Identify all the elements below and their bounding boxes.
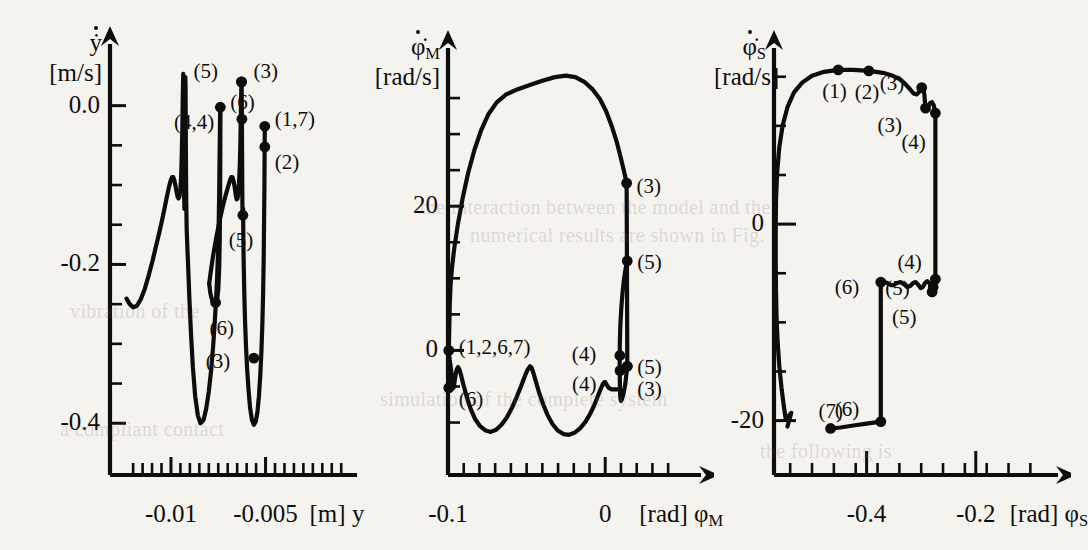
data-point-marker: [622, 361, 633, 372]
point-label: (3): [880, 73, 905, 94]
data-point-marker: [622, 256, 633, 267]
point-label: (3): [878, 115, 903, 136]
page-ghost-text: the interaction between the model and th…: [420, 196, 771, 219]
x-tick-label: -0.1: [388, 501, 508, 526]
data-point-marker: [443, 345, 454, 356]
x-ticks: [133, 457, 341, 475]
curve-third-descent: [243, 129, 265, 424]
x-axis-unit-and-label: [rad] φM: [639, 501, 723, 530]
y-axis-unit: [rad/s]: [714, 64, 766, 89]
y-axis-label: φ̇S: [714, 34, 766, 63]
y-tick-label: -20: [714, 407, 764, 432]
point-label: (4): [572, 344, 597, 365]
point-label: (7): [819, 401, 844, 422]
x-tick-label: -0.005: [206, 501, 326, 526]
y-axis-label: φ̇M: [357, 34, 440, 63]
data-point-marker: [825, 423, 836, 434]
point-label: (5): [892, 307, 917, 328]
point-label: (1,7): [275, 109, 315, 130]
data-point-marker: [920, 103, 931, 114]
point-label: (3): [206, 351, 231, 372]
axes: [101, 26, 357, 484]
y-axis-arrow: [439, 30, 457, 50]
data-point-marker: [237, 210, 248, 221]
point-label: (4,4): [174, 112, 214, 133]
y-ticks: [110, 106, 126, 424]
axes: [439, 30, 714, 484]
data-point-marker: [259, 121, 270, 132]
y-axis-arrow: [765, 30, 783, 50]
point-label: (6): [210, 318, 235, 339]
y-axis-unit: [m/s]: [0, 60, 102, 85]
panel-left: (6)(6)(5)(3)(4,4)(5)(3)(1,7)(2)0.0-0.2-0…: [0, 0, 357, 550]
point-label: (3): [254, 61, 279, 82]
data-point-marker: [930, 108, 941, 119]
point-label: (1): [822, 81, 847, 102]
y-axis-arrow: [101, 26, 119, 46]
panel-middle: (1,2,6,7)(6)(3)(5)(4)(4)(5)(3)200-0.10φ̇…: [357, 0, 714, 550]
data-point-marker: [248, 353, 259, 364]
x-ticks: [448, 457, 668, 475]
point-label: (6): [835, 277, 860, 298]
curve-big-arc: [776, 70, 869, 427]
point-label: (4): [901, 132, 926, 153]
point-label: (1,2,6,7): [459, 337, 531, 358]
data-point-marker: [236, 76, 247, 87]
point-label: (5): [229, 230, 254, 251]
y-tick-label: -0.2: [0, 250, 100, 275]
point-label: (5): [194, 61, 219, 82]
y-tick-label: 0.0: [0, 92, 100, 117]
panel-right: (1)(2)(3)(3)(4)(4)(5)(5)(6)(6)(7)0-20-0.…: [714, 0, 1071, 550]
y-axis-label: ẏ: [0, 30, 102, 55]
page-ghost-text: vibration of the: [70, 300, 200, 323]
x-axis-arrow: [1056, 466, 1071, 484]
data-point-marker: [916, 82, 927, 93]
point-label: (5): [637, 357, 662, 378]
y-tick-label: 0: [357, 336, 438, 361]
point-label: (2): [275, 152, 300, 173]
data-point-marker: [614, 350, 625, 361]
data-point-marker: [259, 142, 270, 153]
data-point-marker: [621, 178, 632, 189]
point-label: (5): [885, 278, 910, 299]
x-axis-unit-and-label: [rad] φS: [1010, 501, 1088, 530]
point-label: (5): [637, 252, 662, 273]
point-label: (3): [637, 176, 662, 197]
data-point-marker: [210, 297, 221, 308]
y-axis-unit: [rad/s]: [357, 64, 440, 89]
page-ghost-text: a compliant contact: [60, 418, 224, 441]
data-point-marker: [215, 102, 226, 113]
page-ghost-text: the following is: [760, 440, 892, 463]
point-label: (2): [855, 82, 880, 103]
point-label: (6): [230, 92, 255, 113]
data-point-marker: [875, 416, 886, 427]
page-ghost-text: simulation of the complete system: [380, 388, 668, 411]
page-ghost-text: numerical results are shown in Fig.: [470, 224, 765, 247]
data-point-marker: [833, 64, 844, 75]
data-point-marker: [863, 65, 874, 76]
data-point-marker: [237, 114, 248, 125]
x-tick-label: -0.4: [807, 501, 927, 526]
point-label: (4): [897, 252, 922, 273]
data-point-marker: [927, 287, 938, 298]
curve-group: [449, 76, 627, 435]
x-axis-arrow: [699, 466, 714, 484]
